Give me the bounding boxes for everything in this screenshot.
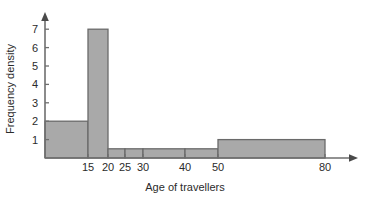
y-tick-label: 5 xyxy=(32,60,38,72)
x-tick-label: 40 xyxy=(179,161,191,173)
histogram-figure: 1234567 15202530405080 Frequency density… xyxy=(0,0,368,200)
histogram-bar xyxy=(88,29,108,158)
histogram-bar xyxy=(185,149,218,158)
histogram-bar xyxy=(108,149,125,158)
y-tick-label: 7 xyxy=(32,23,38,35)
bars-group xyxy=(45,29,325,158)
histogram-bar xyxy=(218,140,325,158)
x-tick-label: 25 xyxy=(119,161,131,173)
histogram-canvas: 1234567 15202530405080 Frequency density… xyxy=(0,0,368,200)
x-tick-label: 20 xyxy=(102,161,114,173)
y-tick-label: 3 xyxy=(32,97,38,109)
x-axis-title: Age of travellers xyxy=(145,181,225,193)
x-tick-label: 80 xyxy=(319,161,331,173)
y-tick-label: 6 xyxy=(32,42,38,54)
y-axis-arrowhead xyxy=(41,12,49,21)
y-tick-label: 2 xyxy=(32,115,38,127)
y-tick-label: 1 xyxy=(32,134,38,146)
histogram-bar xyxy=(143,149,185,158)
y-tick-label: 4 xyxy=(32,78,38,90)
x-tick-label: 15 xyxy=(82,161,94,173)
histogram-bar xyxy=(125,149,143,158)
x-tick-label: 50 xyxy=(212,161,224,173)
histogram-bar xyxy=(45,121,88,158)
y-axis-title: Frequency density xyxy=(4,44,16,134)
x-tick-label: 30 xyxy=(137,161,149,173)
x-axis-arrowhead xyxy=(349,154,358,162)
